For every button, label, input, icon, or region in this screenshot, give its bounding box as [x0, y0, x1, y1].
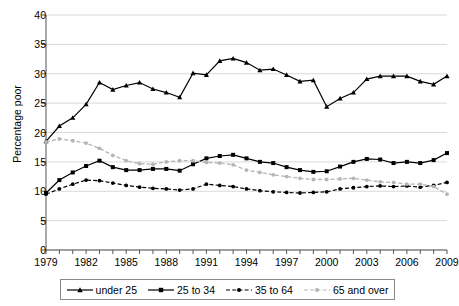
- data-point: [204, 156, 208, 160]
- data-point: [378, 158, 382, 162]
- data-point: [84, 178, 88, 182]
- data-point: [351, 160, 355, 164]
- data-point: [138, 162, 142, 166]
- data-point: [191, 159, 195, 163]
- legend-item-1: under 25: [67, 284, 137, 296]
- data-point: [271, 190, 275, 194]
- chart-legend: under 2525 to 3435 to 6465 and over: [60, 279, 395, 300]
- data-point: [338, 177, 342, 181]
- data-point: [71, 182, 75, 186]
- data-point: [405, 182, 409, 186]
- data-point: [151, 186, 155, 190]
- series-line-1: [46, 58, 447, 141]
- y-tick-label: 15: [20, 156, 46, 168]
- data-point: [352, 186, 356, 190]
- data-point: [418, 161, 422, 165]
- data-point: [97, 80, 102, 85]
- y-tick-label: 30: [20, 68, 46, 80]
- data-point: [138, 185, 142, 189]
- data-point: [338, 187, 342, 191]
- data-point: [71, 170, 75, 174]
- y-tick-label: 35: [20, 38, 46, 50]
- data-point: [164, 160, 168, 164]
- y-tick-label: 40: [20, 9, 46, 21]
- y-tick-label: 0: [20, 244, 46, 256]
- y-tick-label: 25: [20, 97, 46, 109]
- data-point: [57, 187, 61, 191]
- data-point: [138, 168, 142, 172]
- data-point: [97, 159, 101, 163]
- data-point: [151, 162, 155, 166]
- data-point: [245, 187, 249, 191]
- data-point: [352, 176, 356, 180]
- data-point: [218, 183, 222, 187]
- data-point: [191, 187, 195, 191]
- series-line-4: [46, 139, 447, 194]
- data-point: [285, 191, 289, 195]
- data-point: [98, 146, 102, 150]
- data-point: [325, 190, 329, 194]
- data-point: [124, 168, 128, 172]
- data-point: [311, 191, 315, 195]
- data-point: [231, 163, 235, 167]
- data-point: [178, 159, 182, 163]
- data-point: [231, 153, 235, 157]
- data-point: [84, 164, 88, 168]
- data-point: [418, 182, 422, 186]
- data-point: [432, 158, 436, 162]
- data-point: [325, 169, 329, 173]
- data-point: [98, 179, 102, 183]
- data-point: [218, 161, 222, 165]
- data-point: [324, 104, 329, 109]
- data-point: [164, 167, 168, 171]
- legend-item-3: 35 to 64: [226, 284, 293, 296]
- data-point: [258, 171, 262, 175]
- y-tick-label: 20: [20, 127, 46, 139]
- data-point: [311, 170, 315, 174]
- data-point: [205, 182, 209, 186]
- data-point: [445, 192, 449, 196]
- data-point: [258, 160, 262, 164]
- data-point: [191, 162, 195, 166]
- x-tick-label: 1994: [235, 256, 258, 268]
- x-tick-label: 1979: [34, 256, 57, 268]
- legend-item-2: 25 to 34: [148, 284, 215, 296]
- data-point: [285, 165, 289, 169]
- data-point: [392, 161, 396, 165]
- data-point: [164, 187, 168, 191]
- data-point: [57, 178, 61, 182]
- data-point: [311, 178, 315, 182]
- data-point: [137, 80, 142, 85]
- data-point: [84, 141, 88, 145]
- data-point: [271, 161, 275, 165]
- data-point: [365, 185, 369, 189]
- y-tick-label: 5: [20, 215, 46, 227]
- data-point: [245, 156, 249, 160]
- x-tick-label: 2006: [395, 256, 418, 268]
- data-point: [365, 178, 369, 182]
- data-point: [151, 167, 155, 171]
- data-point: [57, 123, 62, 128]
- data-point: [271, 173, 275, 177]
- legend-label: under 25: [96, 284, 137, 296]
- legend-marker-icon: [148, 285, 174, 295]
- data-point: [111, 181, 115, 185]
- data-point: [218, 154, 222, 158]
- data-point: [392, 185, 396, 189]
- data-point: [298, 168, 302, 172]
- data-point: [298, 191, 302, 195]
- x-tick-label: 1991: [195, 256, 218, 268]
- data-point: [445, 181, 449, 185]
- x-tick-label: 1985: [115, 256, 138, 268]
- x-tick-label: 1988: [155, 256, 178, 268]
- data-point: [338, 165, 342, 169]
- data-point: [178, 188, 182, 192]
- data-point: [57, 137, 61, 141]
- data-point: [378, 180, 382, 184]
- data-point: [258, 189, 262, 193]
- data-point: [111, 165, 115, 169]
- legend-marker-icon: [226, 285, 252, 295]
- legend-label: 35 to 64: [255, 284, 293, 296]
